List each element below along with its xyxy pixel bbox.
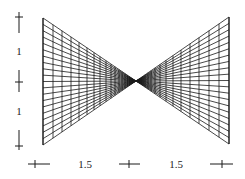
bowtie-mesh-diagram <box>0 0 245 179</box>
mesh-row-line <box>136 81 229 106</box>
horizontal-dimension-markers <box>28 160 233 168</box>
mesh-row-line <box>136 81 229 93</box>
mesh-row-line <box>136 81 229 138</box>
mesh-row-line <box>136 81 229 82</box>
vertical-dimension-label-lower: 1 <box>16 106 22 117</box>
mesh-row-line <box>136 23 229 81</box>
mesh-row-line <box>136 55 229 81</box>
vertical-dimension-markers <box>15 12 23 150</box>
horizontal-dimension-label-left: 1.5 <box>78 159 92 170</box>
mesh-row-line <box>136 30 229 81</box>
vertical-dimension-label-upper: 1 <box>16 46 22 57</box>
left-mesh-wedge <box>43 18 136 145</box>
mesh-row-line <box>136 49 229 81</box>
mesh-row-line <box>136 81 229 131</box>
right-mesh-wedge <box>136 17 229 144</box>
horizontal-dimension-label-right: 1.5 <box>169 159 183 170</box>
mesh-row-line <box>136 81 229 125</box>
